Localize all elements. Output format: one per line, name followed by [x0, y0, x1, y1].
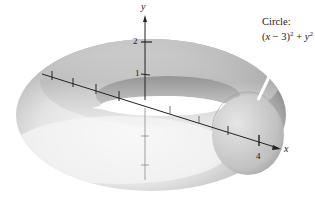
y-tick-label-2: 2 — [133, 37, 138, 46]
annotation-equation: (x − 3)2 + y2 = 1 — [262, 32, 315, 43]
y-axis-label: y — [141, 2, 145, 12]
x-tick-label-4: 4 — [256, 152, 261, 161]
annotation-title: Circle: — [262, 17, 315, 28]
y-axis-arrow-icon — [143, 15, 147, 22]
y-tick-label-1: 1 — [135, 69, 140, 78]
x-axis-label: x — [284, 144, 288, 154]
circle-annotation: Circle: (x − 3)2 + y2 = 1 — [262, 17, 315, 42]
